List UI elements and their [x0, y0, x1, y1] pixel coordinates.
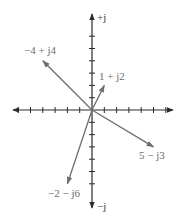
vector-label-5-minus-j3: 5 − j3: [139, 149, 165, 161]
vector-label-1-j2: 1 + j2: [99, 70, 125, 82]
complex-plane-diagram: +j −j −4 + j4 1 + j2 5 − j3 −2 − j6: [0, 0, 182, 221]
phasor-arrow: [92, 110, 154, 147]
phasor-arrow: [67, 110, 92, 184]
phasor-arrow: [43, 61, 92, 110]
negative-imag-label: −j: [97, 200, 106, 212]
vector-label-neg4-j4: −4 + j4: [24, 44, 56, 56]
vector-label-neg2-minus-j6: −2 − j6: [48, 187, 80, 199]
positive-imag-label: +j: [97, 11, 106, 23]
